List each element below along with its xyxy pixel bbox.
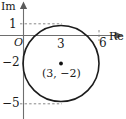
tick-label-im-minus5: −5 (2, 97, 20, 109)
center-point-label: (3, −2) (42, 68, 81, 79)
tick-label-im-minus2: −2 (2, 56, 20, 68)
tick-label-im-1: 1 (9, 18, 17, 30)
real-axis-label: Re (109, 31, 124, 42)
origin-label: O (14, 37, 23, 48)
tick-label-re-6: 6 (99, 37, 107, 49)
center-point-marker (59, 62, 63, 66)
imaginary-axis-label: Im (1, 1, 16, 12)
complex-plane-figure: Im Re O 1 −2 −5 3 6 (3, −2) (0, 0, 126, 119)
imaginary-axis-arrowhead (20, 2, 27, 10)
tick-label-re-3: 3 (57, 38, 65, 50)
